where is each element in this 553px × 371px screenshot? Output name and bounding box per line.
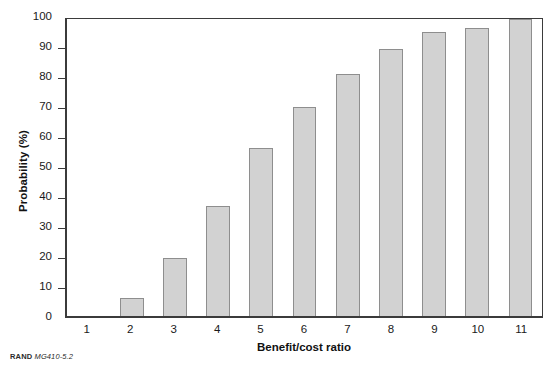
bar-11[interactable] — [509, 19, 533, 316]
figure-bar-chart: Probability (%) 0102030405060708090100 1… — [0, 0, 553, 371]
bar-slot — [456, 19, 499, 316]
x-tick-label-8: 8 — [371, 323, 411, 335]
y-tick-label-10: 10 — [18, 280, 52, 292]
x-tick-label-2: 2 — [110, 323, 150, 335]
bar-9[interactable] — [422, 32, 446, 316]
x-tick-label-6: 6 — [284, 323, 324, 335]
bar-slot — [67, 19, 110, 316]
bar-slot — [197, 19, 240, 316]
bar-10[interactable] — [465, 28, 489, 316]
figure-footer: RAND MG410-5.2 — [10, 352, 73, 361]
bar-slot — [369, 19, 412, 316]
y-tick-label-60: 60 — [18, 130, 52, 142]
y-tick-label-80: 80 — [18, 70, 52, 82]
bar-5[interactable] — [249, 148, 273, 316]
footer-brand: RAND — [10, 352, 32, 361]
x-tick-label-7: 7 — [327, 323, 367, 335]
footer-code: MG410-5.2 — [35, 352, 73, 361]
bar-8[interactable] — [379, 49, 403, 316]
bar-slot — [240, 19, 283, 316]
y-tick-label-90: 90 — [18, 40, 52, 52]
y-tick-label-50: 50 — [18, 160, 52, 172]
bar-7[interactable] — [336, 74, 360, 316]
x-tick-label-1: 1 — [67, 323, 107, 335]
plot-area — [65, 18, 543, 318]
x-tick-label-3: 3 — [154, 323, 194, 335]
y-tick-label-70: 70 — [18, 100, 52, 112]
x-tick-label-4: 4 — [197, 323, 237, 335]
bar-slot — [283, 19, 326, 316]
bar-slot — [499, 19, 542, 316]
bar-series — [67, 19, 542, 316]
y-tick-label-100: 100 — [18, 10, 52, 22]
bar-2[interactable] — [120, 298, 144, 316]
bar-3[interactable] — [163, 258, 187, 316]
bar-slot — [110, 19, 153, 316]
y-tick-label-30: 30 — [18, 220, 52, 232]
y-tick-label-40: 40 — [18, 190, 52, 202]
x-tick-label-10: 10 — [458, 323, 498, 335]
x-tick-label-11: 11 — [501, 323, 541, 335]
bar-slot — [153, 19, 196, 316]
bar-4[interactable] — [206, 206, 230, 316]
x-tick-label-9: 9 — [414, 323, 454, 335]
bar-slot — [413, 19, 456, 316]
x-tick-label-5: 5 — [241, 323, 281, 335]
bar-slot — [326, 19, 369, 316]
bar-6[interactable] — [293, 107, 317, 316]
y-tick-label-0: 0 — [18, 310, 52, 322]
y-tick-label-20: 20 — [18, 250, 52, 262]
x-axis-title: Benefit/cost ratio — [65, 341, 543, 353]
